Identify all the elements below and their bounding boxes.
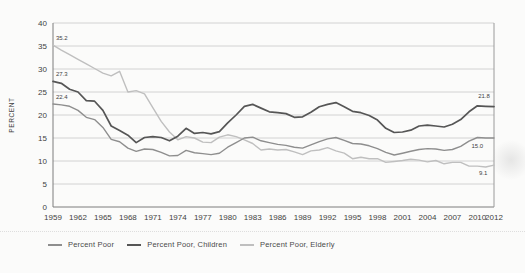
x-tick-label: 1959 (44, 213, 62, 222)
x-tick-label: 1995 (344, 213, 362, 222)
legend-line-sample-icon (240, 244, 254, 246)
y-tick-label: 5 (43, 180, 48, 189)
y-tick-label: 35 (38, 42, 47, 51)
x-tick-label: 1989 (294, 213, 312, 222)
x-tick-label: 2007 (443, 213, 461, 222)
x-tick-label: 1965 (94, 213, 112, 222)
poverty-chart: 0510152025303540PERCENT19591962196519681… (0, 0, 525, 231)
x-tick-label: 1962 (69, 213, 87, 222)
legend-item-label: Percent Poor (68, 240, 114, 249)
x-tick-label: 1980 (219, 213, 237, 222)
x-tick-label: 2001 (394, 213, 412, 222)
data-label: 35.2 (56, 35, 68, 41)
y-axis-title: PERCENT (8, 97, 15, 132)
legend-item-percent-poor: Percent Poor (48, 240, 114, 249)
data-label: 9.1 (479, 170, 488, 176)
x-tick-label: 1998 (369, 213, 387, 222)
x-tick-label: 1971 (144, 213, 162, 222)
y-tick-label: 20 (38, 111, 47, 120)
y-tick-label: 10 (38, 157, 47, 166)
legend-item-label: Percent Poor, Children (147, 240, 227, 249)
y-tick-label: 30 (38, 65, 47, 74)
x-tick-label: 1968 (119, 213, 137, 222)
x-tick-label: 1974 (169, 213, 187, 222)
y-tick-label: 40 (38, 19, 47, 28)
legend-line-sample-icon (127, 244, 141, 246)
data-label: 21.8 (478, 93, 490, 99)
legend-line-sample-icon (48, 244, 62, 246)
x-tick-label: 1983 (244, 213, 262, 222)
x-tick-label: 2012 (485, 213, 503, 222)
legend-item-percent-poor-elderly: Percent Poor, Elderly (240, 240, 335, 249)
x-tick-label: 1977 (194, 213, 212, 222)
legend-divider (0, 231, 525, 232)
poverty-rate-figure: 0510152025303540PERCENT19591962196519681… (0, 0, 525, 273)
x-tick-label: 2010 (468, 213, 486, 222)
x-tick-label: 1992 (319, 213, 337, 222)
data-label: 22.4 (56, 94, 68, 100)
data-label: 27.3 (56, 71, 68, 77)
legend-item-label: Percent Poor, Elderly (260, 240, 335, 249)
series-line-percent-poor-children (53, 81, 494, 142)
legend-item-percent-poor-children: Percent Poor, Children (127, 240, 227, 249)
data-label: 15.0 (472, 143, 484, 149)
y-tick-label: 15 (38, 134, 47, 143)
y-tick-label: 0 (43, 203, 48, 212)
y-tick-label: 25 (38, 88, 47, 97)
x-tick-label: 2004 (419, 213, 437, 222)
x-tick-label: 1986 (269, 213, 287, 222)
legend: Percent Poor Percent Poor, Children Perc… (48, 240, 518, 249)
